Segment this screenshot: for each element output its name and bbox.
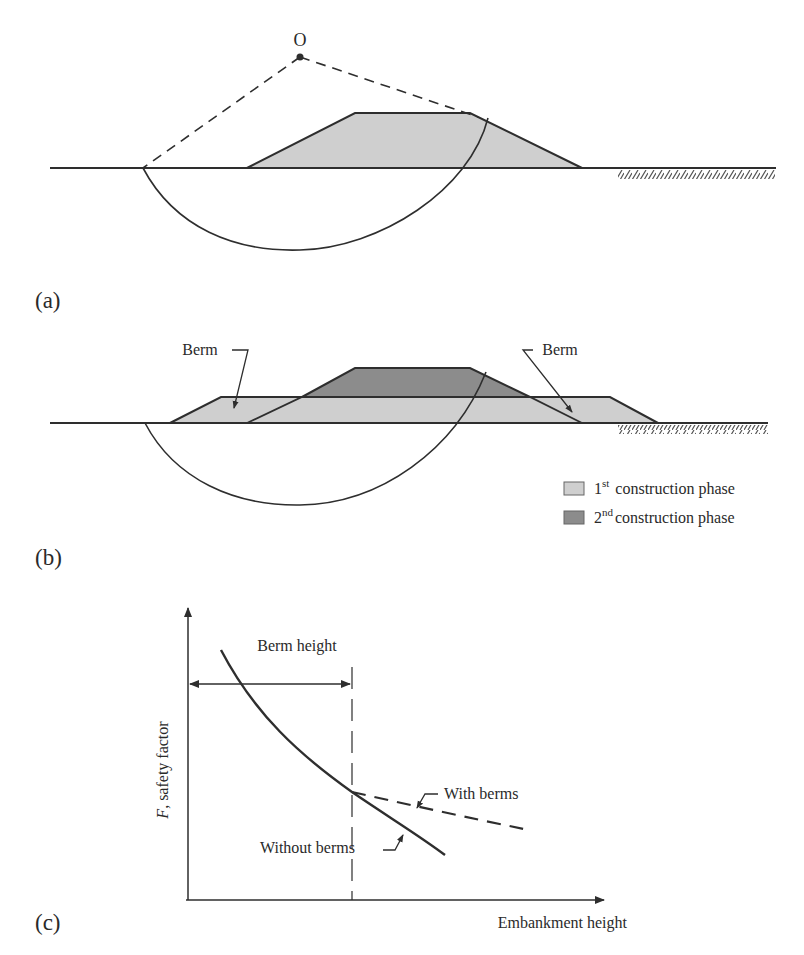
center-label-o: O [294,30,307,50]
without-berms-leader [383,835,403,850]
panel-label-a: (a) [35,288,61,313]
with-berms-leader [417,794,438,808]
embankment-a [247,113,582,168]
panel-a: O (a) [35,30,776,313]
panel-label-c: (c) [35,910,61,935]
legend-item-phase1: 1stconstruction phase [594,477,735,498]
figure-canvas: O (a) Berm Berm 1stconstruction phase 2n… [0,0,804,955]
center-point-o [297,54,304,61]
berm-label-left: Berm [182,341,218,358]
embankment-top-phase2 [302,368,530,397]
legend: 1stconstruction phase 2ndconstruction ph… [564,477,735,527]
berm-height-label: Berm height [257,637,337,655]
radius-right-a [300,57,478,117]
radius-left-a [143,57,300,168]
curve-without-berms [221,650,445,855]
ground-hatch-b [618,425,768,434]
panel-c: Berm height With berms Without berms F, … [35,608,628,935]
panel-label-b: (b) [35,545,62,570]
without-berms-label: Without berms [260,839,355,856]
x-axis-label: Embankment height [498,914,628,932]
panel-b: Berm Berm 1stconstruction phase 2ndconst… [35,341,768,570]
legend-swatch-phase2 [564,511,584,524]
berm-label-right: Berm [542,341,578,358]
y-axis-label: F, safety factor [154,721,172,820]
legend-item-phase2: 2ndconstruction phase [594,506,735,527]
embankment-core-phase1 [247,397,582,423]
legend-swatch-phase1 [564,482,584,495]
ground-hatch-a [618,170,775,179]
with-berms-label: With berms [444,785,518,802]
